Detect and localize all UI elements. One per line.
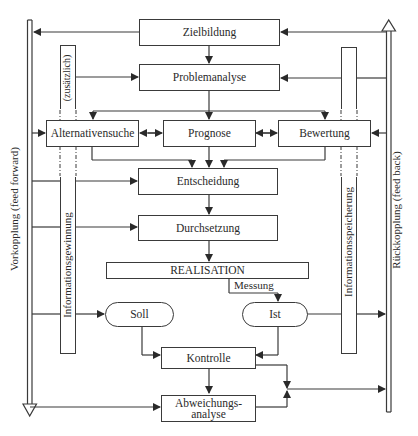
deviation-analysis-box: Abweichungs- analyse [161, 395, 256, 422]
control-box: Kontrolle [161, 347, 256, 369]
feed-back-label: Rückkopplung (feed back) [390, 140, 404, 280]
information-acquisition-label: Informationsgewinnung [61, 205, 75, 325]
deviation-analysis-line2: analyse [191, 409, 225, 420]
actual-value-pill: Ist [242, 302, 308, 327]
information-storage-label: Informationsspeicherung [342, 177, 356, 307]
realisation-bar: REALISATION [106, 262, 309, 279]
forecast-box: Prognose [163, 120, 256, 147]
goal-setting-box: Zielbildung [139, 19, 280, 46]
implementation-box: Durchsetzung [138, 215, 278, 241]
target-value-pill: Soll [105, 302, 174, 327]
additional-label: (zusätzlich) [61, 43, 75, 113]
information-storage-bar-top [341, 47, 357, 109]
decision-box: Entscheidung [138, 168, 278, 195]
evaluation-box: Bewertung [278, 120, 371, 147]
alternative-search-box: Alternativensuche [46, 120, 139, 147]
problem-analysis-box: Problemanalyse [139, 64, 280, 91]
measurement-label: Messung [234, 279, 274, 291]
feed-forward-label: Vorkopplung (feed forward) [8, 134, 22, 284]
deviation-analysis-line1: Abweichungs- [175, 398, 242, 409]
